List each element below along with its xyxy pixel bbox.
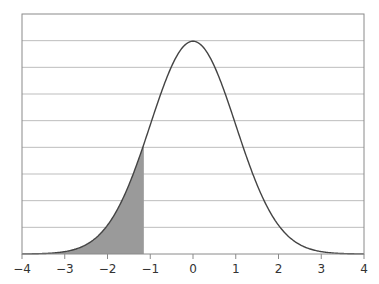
plot-frame xyxy=(22,14,364,254)
x-tick-label: 4 xyxy=(360,262,368,276)
x-tick-label: 1 xyxy=(232,262,240,276)
gridlines xyxy=(22,41,364,228)
x-tick-label: −2 xyxy=(99,262,117,276)
x-axis-ticks xyxy=(22,254,364,259)
x-tick-label: −1 xyxy=(141,262,159,276)
x-tick-label: −4 xyxy=(13,262,31,276)
x-tick-label: 3 xyxy=(317,262,325,276)
x-tick-label: 2 xyxy=(275,262,283,276)
x-tick-label: 0 xyxy=(189,262,197,276)
shaded-left-tail xyxy=(22,144,144,254)
x-axis-labels: −4−3−2−101234 xyxy=(13,262,368,276)
normal-distribution-chart: −4−3−2−101234 xyxy=(0,0,379,284)
x-tick-label: −3 xyxy=(56,262,74,276)
